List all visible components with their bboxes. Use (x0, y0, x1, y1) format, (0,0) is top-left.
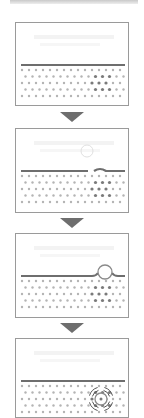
down-arrow-icon (60, 112, 84, 122)
lattice-diagram (16, 129, 129, 213)
step-panel-2 (15, 128, 129, 213)
lattice-diagram (16, 23, 129, 106)
down-arrow-icon (60, 323, 84, 333)
lattice-diagram (16, 339, 129, 418)
step-panel-4 (15, 338, 129, 418)
step-panel-1 (15, 22, 129, 106)
down-arrow-icon (60, 218, 84, 228)
previous-panel-edge (10, 0, 138, 4)
step-panel-3 (15, 233, 129, 318)
lattice-diagram (16, 234, 129, 318)
